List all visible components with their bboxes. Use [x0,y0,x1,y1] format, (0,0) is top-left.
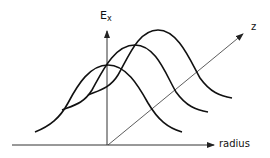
z-axis-label: z [251,22,256,32]
ex-label-subscript: x [107,14,112,23]
gaussian-curve-front [35,65,182,132]
radius-axis-label: radius [219,139,250,149]
diagram-canvas [0,0,270,158]
ex-label-main: E [100,9,107,22]
ex-axis-label: Ex [100,10,112,23]
